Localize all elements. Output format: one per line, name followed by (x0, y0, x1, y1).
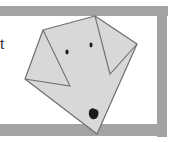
right-eye-icon (90, 43, 93, 48)
origami-dog-drawing (0, 0, 172, 142)
dog-head (25, 16, 137, 134)
illustration: t (0, 0, 172, 142)
cropped-text: t (0, 36, 4, 51)
left-eye-icon (65, 50, 68, 55)
